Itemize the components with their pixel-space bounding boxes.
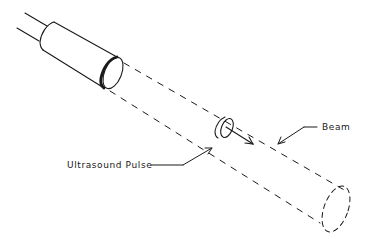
transducer: [40, 22, 127, 91]
ultrasound-pulse: [215, 117, 236, 140]
beam-leader-arrow: [278, 127, 317, 144]
beam-outline: [110, 63, 346, 223]
cable: [17, 13, 47, 41]
ultrasound-pulse-label: Ultrasound Pulse: [67, 160, 152, 170]
diagram-canvas: [0, 0, 371, 239]
beam-end: [317, 182, 356, 235]
beam-label: Beam: [322, 122, 350, 132]
pulse-leader-arrow: [151, 148, 212, 165]
ultrasound-beam-diagram: Beam Ultrasound Pulse: [0, 0, 371, 239]
